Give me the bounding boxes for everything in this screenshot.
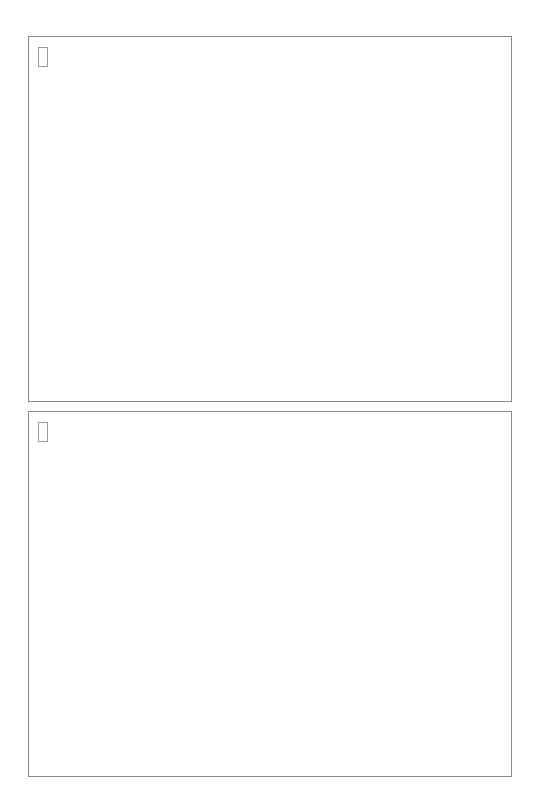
panel-no-interaction [28,36,512,402]
panel-interaction [28,411,512,777]
panel-title [38,47,48,67]
panel-title [38,422,48,442]
